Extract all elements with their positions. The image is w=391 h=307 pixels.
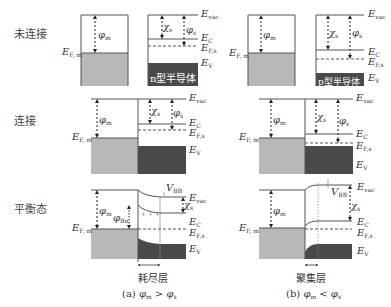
n-type-box-label: n型半导体 xyxy=(150,70,196,85)
label-phi-m: φm xyxy=(98,30,111,41)
panel-a-connected xyxy=(91,99,186,174)
caption-b: (b) φm < φs xyxy=(286,288,341,300)
label-Evac: Evac xyxy=(368,9,386,20)
label-EFm: EF, m xyxy=(72,223,92,234)
label-chi-s: χs xyxy=(151,106,160,117)
label-EFs: EF,s xyxy=(201,43,217,54)
p-type-box-label: p型半导体 xyxy=(318,75,360,88)
label-EFs: EF,s xyxy=(189,128,205,139)
svg-text:+ + +: + + + xyxy=(141,210,160,217)
label-phi-m: φm xyxy=(273,206,286,217)
label-VBB: VBB xyxy=(331,187,347,198)
label-EFm: EF, m xyxy=(62,47,82,58)
label-EFs: EF,s xyxy=(357,228,373,239)
label-phi-Bn: φBn xyxy=(113,213,128,224)
label-phi-m: φm xyxy=(99,206,112,217)
label-Ev: EV xyxy=(189,244,201,255)
label-EFm: EF, m xyxy=(229,48,249,59)
label-phi-m: φm xyxy=(99,115,112,126)
label-phi-s: φs xyxy=(339,116,349,127)
label-Ev: EV xyxy=(368,73,380,84)
label-EFs: EF,s xyxy=(368,57,384,68)
label-EFm: EF, m xyxy=(239,132,259,143)
label-phi-m: φm xyxy=(263,30,276,41)
label-Ec: EC xyxy=(356,129,368,140)
label-phi-s: φs xyxy=(186,25,196,36)
label-Evac: Evac xyxy=(357,182,375,193)
label-Evac: Evac xyxy=(189,193,207,204)
label-phi-m: φm xyxy=(273,115,286,126)
caption-a: (a) φm > φs xyxy=(122,288,177,300)
label-EFm: EF, m xyxy=(239,223,259,234)
label-Ev: EV xyxy=(357,246,369,257)
caption-depletion-layer: 耗尽层 xyxy=(138,270,168,285)
label-chi-s: χs xyxy=(317,112,326,123)
label-Ev: EV xyxy=(356,160,368,171)
label-phi-s: φs xyxy=(173,108,183,119)
label-Evac: Evac xyxy=(356,93,374,104)
label-EFs: EF,s xyxy=(189,228,205,239)
panel-a-equilibrium: + + + xyxy=(91,190,186,265)
row-label-unconnected: 未连接 xyxy=(14,25,47,41)
metal-semiconductor-band-diagram: + + + 未连接 连接 平衡态 n型半导体 p型半导体 EF, m φm χs… xyxy=(0,0,391,307)
label-Evac: Evac xyxy=(201,9,219,20)
label-EFs: EF,s xyxy=(356,141,372,152)
label-Ev: EV xyxy=(201,58,213,69)
caption-accumulation-layer: 聚集层 xyxy=(296,270,326,285)
row-label-equilibrium: 平衡态 xyxy=(14,200,47,216)
label-Ev: EV xyxy=(189,145,201,156)
label-Evac: Evac xyxy=(189,93,207,104)
label-EFm: EF, m xyxy=(72,132,92,143)
label-phi-s: φs xyxy=(352,28,362,39)
label-VBB: VBB xyxy=(166,183,182,194)
label-chi-s: χs xyxy=(329,28,338,39)
label-chi-s: χs xyxy=(163,22,172,33)
panel-b-connected xyxy=(259,99,353,174)
label-chi-s: χs xyxy=(351,201,360,212)
row-label-connected: 连接 xyxy=(14,112,36,128)
